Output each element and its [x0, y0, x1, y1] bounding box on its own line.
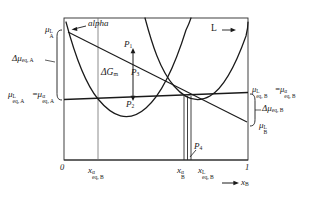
x-tick-x-B-alpha: xαB	[177, 166, 181, 175]
label-mu-A-L: μLA	[45, 25, 50, 34]
x-axis-label: xB	[241, 178, 249, 188]
x-tick-origin: 0	[60, 163, 64, 172]
bracket-left-tick	[45, 60, 55, 62]
label-mu-A-L-sub: A	[50, 34, 54, 40]
point-P1-marker	[132, 50, 134, 52]
bracket-delta-mu-eq-A	[57, 30, 62, 100]
common-tangent-line	[64, 93, 248, 100]
label-mu-eq-A: μLeq, A=μαeq, A	[8, 90, 42, 99]
label-delta-mu-eq-A: Δμeq, A	[12, 54, 34, 64]
point-label-P2: P2	[126, 100, 134, 110]
point-label-P1-index: 1	[130, 43, 133, 49]
point-P2-marker	[132, 97, 134, 99]
bracket-delta-mu-eq-B	[250, 94, 255, 126]
x-axis-label-sub: B	[245, 181, 249, 187]
L-pointer-arrowhead	[231, 28, 236, 32]
x-tick-right: 1	[245, 163, 249, 172]
x-axis-arrowhead	[233, 181, 239, 186]
point-label-P4-index: 4	[200, 145, 203, 151]
point-label-P1: P1	[124, 40, 132, 50]
label-delta-mu-eq-A-sub: eq, A	[22, 57, 34, 63]
x-tick-x-eq-B-alpha: xαeq, B	[88, 166, 92, 175]
chord-line	[68, 32, 247, 122]
x-tick-x-eq-B-L: xLeq, B	[198, 166, 202, 175]
point-label-P3-index: 3	[137, 71, 140, 77]
label-delta-mu-eq-B-sub: eq, B	[272, 107, 284, 113]
figure-canvas: alpha L μLA Δμeq, A μLeq, A=μαeq, A μLeq…	[0, 0, 313, 204]
label-delta-mu-eq-B: Δμeq, B	[262, 104, 284, 114]
label-delta-Gm: ΔGm	[101, 68, 118, 78]
alpha-pointer-arrowhead	[72, 27, 78, 31]
label-delta-Gm-sub: m	[113, 71, 118, 77]
point-label-P2-index: 2	[132, 103, 135, 109]
point-label-P3: P3	[131, 68, 139, 78]
label-mu-B-L-sub: B	[264, 130, 268, 136]
label-mu-B-L: μLB	[259, 121, 264, 130]
curve-label-liquid: L	[211, 24, 217, 34]
curve-label-alpha: alpha	[88, 19, 109, 28]
label-mu-eq-B: μLeq, B=μαeq, B	[252, 85, 284, 94]
point-label-P4: P4	[194, 142, 202, 152]
